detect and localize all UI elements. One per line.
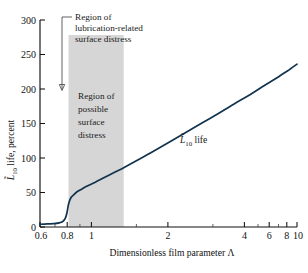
y-axis-ticks bbox=[40, 20, 45, 227]
y-tick-label-50: 50 bbox=[26, 187, 36, 198]
y-tick-label-150: 150 bbox=[21, 118, 36, 129]
x-tick-label-1: 1 bbox=[89, 230, 94, 241]
svg-text:L̃10 life: L̃10 life bbox=[179, 133, 207, 146]
y-tick-label-100: 100 bbox=[21, 153, 36, 164]
x-tick-label-6: 6 bbox=[267, 230, 272, 241]
y-tick-label-300: 300 bbox=[21, 15, 36, 26]
figure-container: 0 50 100 150 200 250 300 0.6 0.8 bbox=[0, 0, 308, 273]
lubrication-annotation-line-2: lubrication-related bbox=[75, 23, 143, 33]
svg-text:L̃10 life, percent: L̃10 life, percent bbox=[4, 119, 17, 181]
y-tick-label-200: 200 bbox=[21, 84, 36, 95]
possible-annotation-line-2: possible bbox=[78, 104, 108, 114]
lubrication-annotation-line-1: Region of bbox=[75, 12, 112, 22]
x-tick-label-4: 4 bbox=[242, 230, 247, 241]
x-tick-label-0p6: 0.6 bbox=[35, 230, 48, 241]
y-axis-title: L̃10 life, percent bbox=[4, 119, 17, 181]
x-tick-label-8: 8 bbox=[284, 230, 289, 241]
curve-label-suffix: life bbox=[192, 134, 207, 145]
possible-annotation-line-3: surface bbox=[78, 117, 105, 127]
y-tick-label-250: 250 bbox=[21, 49, 36, 60]
x-tick-label-10: 10 bbox=[293, 230, 303, 241]
chart-canvas: 0 50 100 150 200 250 300 0.6 0.8 bbox=[0, 0, 308, 273]
x-axis-title: Dimensionless film parameter Λ bbox=[110, 247, 235, 258]
possible-annotation-line-4: distress bbox=[78, 130, 106, 140]
curve-label: L̃10 life bbox=[179, 133, 207, 146]
x-tick-label-0p8: 0.8 bbox=[61, 230, 74, 241]
y-axis-title-rest: life, percent bbox=[5, 119, 16, 168]
possible-annotation-line-1: Region of bbox=[78, 91, 115, 101]
lubrication-annotation-line-3: surface distress bbox=[75, 34, 132, 44]
x-tick-label-2: 2 bbox=[165, 230, 170, 241]
